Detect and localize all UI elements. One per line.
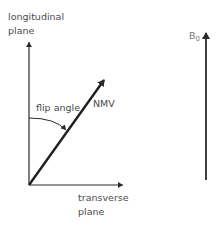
flip-angle-arc [29, 118, 66, 130]
longitudinal-label-line1: longitudinal [8, 11, 64, 22]
b0-label: B0 [189, 30, 200, 43]
transverse-label-line2: plane [78, 206, 105, 217]
flip-angle-label: flip angle [36, 102, 80, 113]
b0-label-subscript: 0 [196, 35, 200, 43]
longitudinal-label-line2: plane [8, 25, 35, 36]
transverse-label-line1: transverse [78, 192, 129, 203]
nmv-vector-arrow [29, 80, 104, 185]
flip-angle-diagram: longitudinal plane transverse plane flip… [0, 0, 220, 227]
nmv-label: NMV [93, 98, 115, 109]
